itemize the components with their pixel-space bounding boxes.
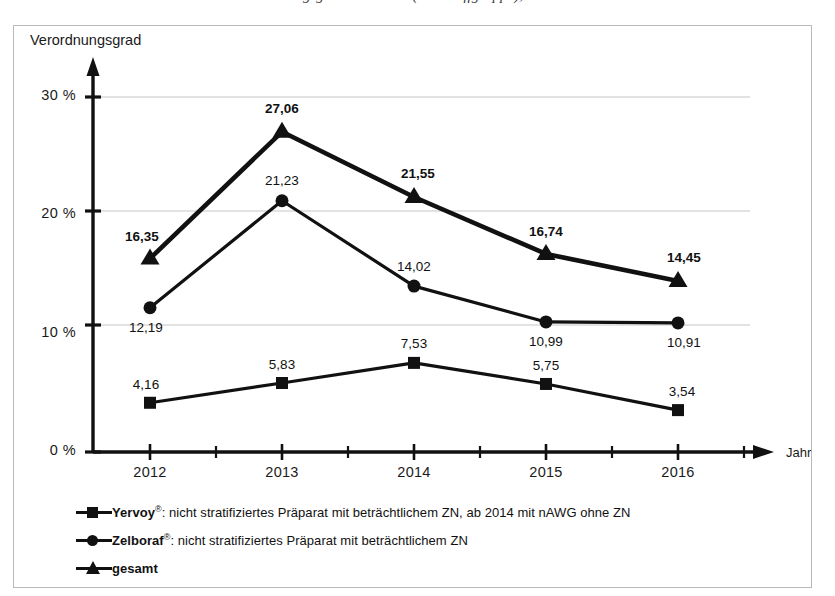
data-point-label: 7,53 bbox=[369, 336, 459, 351]
x-axis-title: Jahr bbox=[786, 445, 811, 460]
data-point-label: 27,06 bbox=[237, 101, 327, 116]
chart-legend: Yervoy®: nicht stratifiziertes Präparat … bbox=[76, 498, 796, 582]
figure-page: Verordnungsgrad nach Jahr (Wirkstoffgrup… bbox=[0, 0, 835, 596]
y-tick-label: 0 % bbox=[14, 442, 76, 458]
figure-title: Verordnungsgrad nach Jahr (Wirkstoffgrup… bbox=[0, 0, 835, 4]
data-point-label: 21,55 bbox=[373, 166, 463, 181]
legend-label: Zelboraf®: nicht stratifiziertes Präpara… bbox=[112, 532, 468, 548]
legend-row-2[interactable]: Zelboraf®: nicht stratifiziertes Präpara… bbox=[76, 526, 796, 554]
data-point-label: 14,45 bbox=[639, 250, 729, 265]
x-tick-label: 2014 bbox=[374, 464, 454, 480]
data-point-label: 14,02 bbox=[369, 259, 459, 274]
data-point-label: 5,75 bbox=[501, 358, 591, 373]
legend-marker-square-icon bbox=[76, 503, 112, 521]
x-tick-label: 2012 bbox=[110, 464, 190, 480]
data-point-label: 12,19 bbox=[101, 320, 191, 335]
x-tick-label: 2016 bbox=[638, 464, 718, 480]
legend-marker-circle-icon bbox=[76, 531, 112, 549]
y-axis-title: Verordnungsgrad bbox=[30, 32, 141, 48]
data-point-label: 4,16 bbox=[101, 377, 191, 392]
x-tick-label: 2013 bbox=[242, 464, 322, 480]
data-point-label: 16,74 bbox=[501, 224, 591, 239]
legend-label: gesamt bbox=[112, 561, 158, 576]
y-tick-label: 30 % bbox=[14, 87, 76, 103]
cropped-title-strip: Verordnungsgrad nach Jahr (Wirkstoffgrup… bbox=[0, 0, 835, 13]
x-tick-label: 2015 bbox=[506, 464, 586, 480]
legend-row-1[interactable]: Yervoy®: nicht stratifiziertes Präparat … bbox=[76, 498, 796, 526]
legend-marker-triangle-icon bbox=[76, 559, 112, 577]
data-point-label: 3,54 bbox=[637, 384, 727, 399]
data-point-label: 10,91 bbox=[639, 335, 729, 350]
data-point-label: 21,23 bbox=[237, 173, 327, 188]
data-point-label: 16,35 bbox=[97, 229, 187, 244]
data-point-label: 5,83 bbox=[237, 357, 327, 372]
legend-row-3[interactable]: gesamt bbox=[76, 554, 796, 582]
y-tick-label: 10 % bbox=[14, 324, 76, 340]
y-tick-label: 20 % bbox=[14, 205, 76, 221]
data-point-label: 10,99 bbox=[501, 334, 591, 349]
legend-label: Yervoy®: nicht stratifiziertes Präparat … bbox=[112, 504, 630, 520]
